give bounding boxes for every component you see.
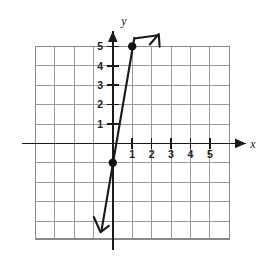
axis-names: x y [120, 14, 256, 151]
x-tick-label: 2 [149, 148, 155, 160]
x-tick-label: 1 [129, 148, 135, 160]
x-axis-tick-labels: 1 2 3 4 5 [129, 148, 213, 160]
y-tick-label: 5 [97, 40, 103, 52]
y-tick-label: 2 [97, 98, 103, 110]
y-axis-label: y [120, 14, 127, 28]
x-axis-label: x [249, 137, 256, 151]
x-tick-label: 5 [207, 148, 213, 160]
graph-figure: 1 2 3 4 5 1 2 3 4 5 [0, 0, 275, 272]
point-1-5 [128, 42, 136, 50]
y-axis-tick-labels: 1 2 3 4 5 [97, 40, 103, 130]
x-tick-label: 3 [168, 148, 174, 160]
y-tick-label: 1 [97, 118, 103, 130]
x-axis [22, 139, 246, 149]
coordinate-plane-svg: 1 2 3 4 5 1 2 3 4 5 [0, 0, 275, 272]
y-tick-label: 3 [97, 79, 103, 91]
point-0-neg1 [109, 159, 117, 167]
y-tick-label: 4 [97, 60, 103, 72]
x-tick-label: 4 [187, 148, 193, 160]
plotted-line [94, 34, 160, 232]
